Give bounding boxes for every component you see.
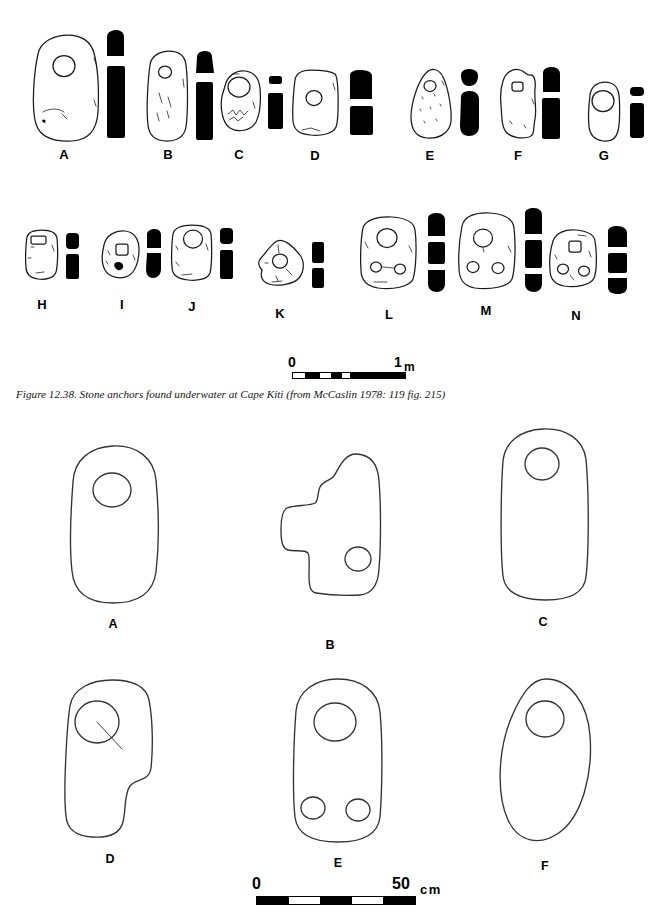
figure-page: A B: [0, 0, 653, 921]
figure-caption: Figure 12.38. Stone anchors found underw…: [16, 387, 636, 401]
lower-scale-start-label: 0: [252, 877, 261, 891]
scale-segment: [350, 373, 405, 378]
anchor-group-H: H: [18, 225, 84, 287]
anchor-M-drawing: [450, 208, 544, 294]
lower-scale-end-label: 50: [392, 877, 410, 891]
label-anchor-H: H: [30, 298, 54, 311]
anchor-group-F: F: [490, 59, 562, 149]
anchor-K-drawing: [248, 235, 328, 297]
anchor-group-C: C: [212, 62, 282, 144]
anchor-group-M: M: [450, 208, 544, 294]
lower-anchor-B-drawing: [268, 449, 398, 617]
scale-segment: [257, 897, 289, 904]
anchor-D-drawing: [284, 63, 376, 145]
lower-anchor-C-drawing: [490, 419, 610, 611]
anchor-E-drawing: [401, 59, 481, 149]
anchor-group-B: B: [138, 41, 216, 145]
lower-anchor-group-B: B: [268, 449, 398, 617]
scale-segment: [293, 373, 305, 378]
label-anchor-L: L: [377, 308, 401, 321]
label-anchor-D: D: [303, 149, 327, 162]
lower-anchor-group-C: C: [490, 419, 610, 611]
lower-scale-bar: 0 50 cm: [252, 877, 452, 907]
anchor-I-drawing: [92, 225, 162, 287]
lower-label-B: B: [318, 639, 342, 652]
anchor-group-E: E: [401, 59, 481, 149]
lower-label-D: D: [98, 853, 122, 866]
upper-scale-bar-graphic: [292, 372, 406, 379]
scale-segment: [320, 373, 331, 378]
scale-segment: [342, 373, 350, 378]
lower-anchor-group-A: A: [55, 430, 175, 615]
label-anchor-F: F: [506, 149, 530, 162]
label-anchor-J: J: [180, 300, 204, 313]
scale-segment: [383, 897, 415, 904]
anchor-H-drawing: [18, 225, 84, 287]
anchor-group-K: K: [248, 235, 328, 297]
anchor-group-G: G: [580, 75, 646, 149]
lower-plate: A B C D blind: [0, 405, 653, 921]
label-anchor-A: A: [52, 148, 76, 161]
lower-anchor-group-D: D: [50, 670, 185, 850]
label-anchor-K: K: [268, 307, 292, 320]
scale-segment: [289, 897, 321, 904]
lower-anchor-F-drawing: [490, 670, 615, 855]
lower-label-E: E: [326, 857, 350, 870]
label-anchor-N: N: [564, 309, 588, 322]
label-anchor-M: M: [474, 304, 498, 317]
label-anchor-C: C: [227, 148, 251, 161]
scale-segment: [320, 897, 352, 904]
label-anchor-E: E: [418, 149, 442, 162]
anchor-group-I: I: [92, 225, 162, 287]
upper-scale-end-label: 1: [394, 355, 402, 369]
anchor-A-drawing: [14, 20, 126, 145]
lower-label-F: F: [533, 860, 557, 873]
anchor-group-L: L: [352, 212, 446, 294]
anchor-group-A: A: [14, 20, 126, 145]
label-anchor-I: I: [110, 298, 134, 311]
lower-label-C: C: [531, 616, 555, 629]
upper-scale-start-label: 0: [288, 355, 296, 369]
upper-plate: A B: [0, 0, 653, 340]
lower-anchor-D-drawing: [50, 670, 185, 850]
lower-anchor-group-F: F: [490, 670, 615, 855]
anchor-C-drawing: [212, 62, 282, 144]
anchor-F-drawing: [490, 59, 562, 149]
lower-anchor-A-drawing: [55, 430, 175, 615]
anchor-N-drawing: [542, 225, 634, 297]
anchor-B-drawing: [138, 41, 216, 145]
label-anchor-G: G: [592, 149, 616, 162]
lower-scale-unit-label: cm: [420, 884, 442, 896]
scale-segment: [331, 373, 342, 378]
upper-scale-bar: 0 1 m: [288, 355, 418, 383]
lower-scale-bar-graphic: [256, 896, 416, 905]
lower-anchor-E-drawing: [282, 667, 407, 852]
anchor-J-drawing: [162, 220, 234, 288]
lower-label-A: A: [101, 618, 125, 631]
scale-segment: [305, 373, 320, 378]
anchor-group-D: D: [284, 63, 376, 145]
label-anchor-B: B: [156, 148, 180, 161]
anchor-G-drawing: [580, 75, 646, 149]
scale-segment: [352, 897, 384, 904]
anchor-group-N: N: [542, 225, 634, 297]
anchor-group-J: J: [162, 220, 234, 288]
lower-anchor-group-E: E: [282, 667, 407, 852]
anchor-L-drawing: [352, 212, 446, 294]
